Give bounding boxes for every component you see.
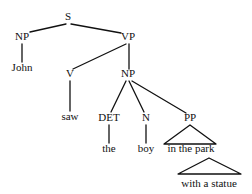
node-n: N (142, 111, 150, 123)
edge-s-to-vp (71, 24, 121, 33)
node-s: S (65, 10, 71, 22)
node-det: DET (98, 111, 120, 123)
edge-np-object-to-pp (132, 81, 186, 113)
node-np-subject: NP (15, 30, 29, 42)
leaf-in-the-park: in the park (167, 142, 215, 154)
node-pp-park: PP (184, 111, 196, 123)
tree-node-labels: S NP VP V NP DET N PP (15, 10, 196, 123)
node-vp: VP (121, 30, 135, 42)
edge-np-object-to-n (129, 81, 144, 112)
tree-edges (22, 24, 186, 143)
syntax-tree-diagram: S NP VP V NP DET N PP John saw the boy i… (0, 0, 252, 194)
triangle-pp-with-a-statue (178, 158, 241, 174)
edge-s-to-np-subject (30, 24, 66, 32)
syntax-tree-canvas: S NP VP V NP DET N PP John saw the boy i… (0, 0, 252, 194)
leaf-boy: boy (138, 142, 155, 154)
leaf-john: John (12, 61, 33, 73)
leaf-saw: saw (61, 110, 78, 122)
node-v: V (66, 67, 74, 79)
edge-np-object-to-det (111, 81, 126, 112)
tree-leaf-labels: John saw the boy in the park with a stat… (12, 61, 237, 189)
node-np-object: NP (121, 67, 135, 79)
edge-vp-to-v (73, 44, 126, 69)
leaf-with-a-statue: with a statue (181, 177, 237, 189)
leaf-the: the (102, 142, 116, 154)
